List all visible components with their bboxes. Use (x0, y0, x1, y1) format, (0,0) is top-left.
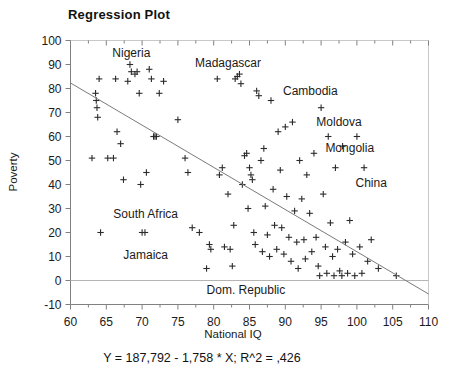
data-point (329, 253, 335, 259)
data-point (249, 177, 255, 183)
y-tick-label: 70 (48, 106, 62, 120)
annotation-label: Jamaica (123, 248, 168, 262)
data-point (127, 61, 133, 67)
data-point (175, 117, 181, 123)
data-point (332, 165, 338, 171)
data-point (112, 76, 118, 82)
data-point (268, 97, 274, 103)
data-point (92, 90, 98, 96)
data-point (279, 225, 285, 231)
annotation-label: Moldova (316, 115, 362, 129)
y-tick-label: 10 (48, 250, 62, 264)
y-tick-label: 0 (55, 274, 62, 288)
data-point (89, 155, 95, 161)
data-point (160, 78, 166, 84)
data-point (214, 76, 220, 82)
annotation-label: Nigeria (112, 46, 150, 60)
data-point (359, 270, 365, 276)
data-point (304, 172, 310, 178)
scatter-plot-canvas: 6065707580859095100105110 10090807060504… (0, 0, 457, 374)
data-point (258, 157, 264, 163)
data-point (302, 256, 308, 262)
data-point (146, 66, 152, 72)
y-axis-title: Poverty (7, 152, 19, 191)
x-tick-label: 100 (347, 315, 367, 329)
data-point (94, 105, 100, 111)
data-point (231, 222, 237, 228)
data-point (301, 237, 307, 243)
data-point (227, 246, 233, 252)
data-point (289, 119, 295, 125)
data-point (334, 246, 340, 252)
data-point (189, 225, 195, 231)
data-point (361, 165, 367, 171)
data-point (203, 265, 209, 271)
data-point (286, 234, 292, 240)
data-point (248, 172, 254, 178)
data-point (143, 169, 149, 175)
data-point (156, 90, 162, 96)
data-point (208, 246, 214, 252)
data-point (97, 229, 103, 235)
data-point (274, 246, 280, 252)
data-point (182, 155, 188, 161)
data-point (148, 76, 154, 82)
annotation-label: Madagascar (195, 56, 261, 70)
data-point (309, 249, 315, 255)
data-point (259, 249, 265, 255)
data-point (277, 167, 283, 173)
data-point (252, 241, 258, 247)
data-point (322, 244, 328, 250)
annotation-label: Mongolia (325, 141, 374, 155)
x-tick-label: 105 (383, 315, 403, 329)
data-point (264, 232, 270, 238)
data-point (313, 234, 319, 240)
plot-frame (71, 41, 429, 305)
data-point (316, 273, 322, 279)
data-point (219, 165, 225, 171)
data-point (251, 229, 257, 235)
data-point (136, 90, 142, 96)
y-tick-label: 100 (41, 34, 61, 48)
annotation-label: China (356, 176, 388, 190)
data-point (245, 205, 251, 211)
x-tick-label: 110 (419, 315, 438, 329)
y-tick-label: -10 (44, 298, 62, 312)
data-point (262, 203, 268, 209)
data-point (153, 133, 159, 139)
data-point (327, 220, 333, 226)
data-point (95, 114, 101, 120)
data-point (315, 263, 321, 269)
data-point (185, 169, 191, 175)
x-tick-label: 60 (64, 315, 78, 329)
data-point (206, 241, 212, 247)
data-point (306, 210, 312, 216)
x-axis-title: National IQ (204, 328, 262, 340)
data-point (347, 217, 353, 223)
data-point (270, 186, 276, 192)
y-tick-label: 20 (48, 226, 62, 240)
data-point (221, 244, 227, 250)
y-tick-label: 50 (48, 154, 62, 168)
data-point (295, 265, 301, 271)
data-point (296, 157, 302, 163)
annotation-label: Cambodia (283, 84, 338, 98)
data-point (196, 229, 202, 235)
data-point (324, 270, 330, 276)
data-point (266, 253, 272, 259)
data-point (354, 133, 360, 139)
data-point (216, 172, 222, 178)
data-points (89, 61, 400, 279)
regression-equation: Y = 187,792 - 1,758 * X; R^2 = ,426 (103, 351, 300, 365)
data-point (238, 81, 244, 87)
data-point (288, 258, 294, 264)
data-point (125, 78, 131, 84)
y-tick-label: 90 (48, 58, 62, 72)
x-tick-label: 85 (243, 315, 257, 329)
data-point (284, 193, 290, 199)
x-axis-tick-labels: 6065707580859095100105110 (64, 315, 439, 329)
data-point (357, 244, 363, 250)
data-point (120, 177, 126, 183)
data-point (114, 129, 120, 135)
data-point (117, 141, 123, 147)
